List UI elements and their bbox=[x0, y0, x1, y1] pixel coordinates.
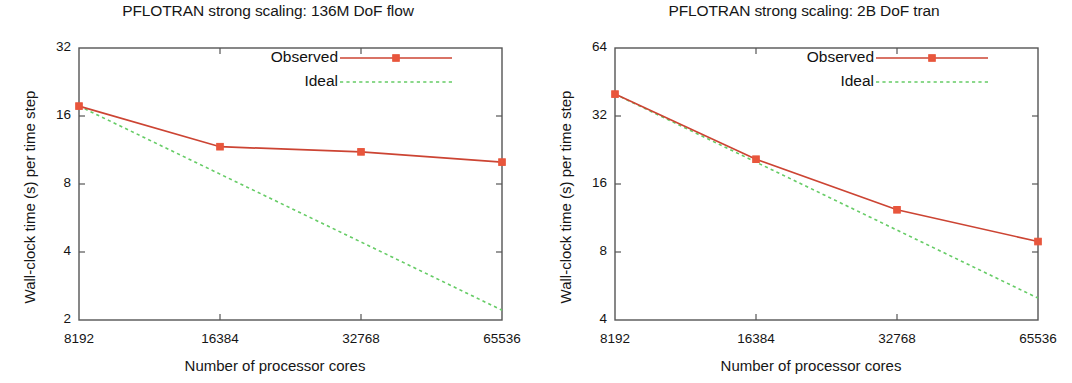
chart-panel-flow: PFLOTRAN strong scaling: 136M DoF flow W… bbox=[0, 0, 536, 383]
x-tick-label: 8192 bbox=[575, 331, 655, 346]
y-tick-label: 8 bbox=[567, 243, 607, 258]
x-axis-label-flow: Number of processor cores bbox=[40, 357, 510, 374]
x-tick-label: 16384 bbox=[716, 331, 796, 346]
y-tick-label: 2 bbox=[31, 311, 71, 326]
figure-two-panel-scaling-plots: PFLOTRAN strong scaling: 136M DoF flow W… bbox=[0, 0, 1072, 383]
y-tick-label: 32 bbox=[567, 107, 607, 122]
legend-label-ideal: Ideal bbox=[716, 72, 874, 90]
x-tick-label: 32768 bbox=[857, 331, 937, 346]
legend-label-observed: Observed bbox=[180, 48, 338, 66]
y-tick-label: 8 bbox=[31, 175, 71, 190]
y-tick-label: 32 bbox=[31, 39, 71, 54]
y-tick-label: 16 bbox=[31, 107, 71, 122]
x-tick-label: 65536 bbox=[462, 331, 542, 346]
y-tick-label: 4 bbox=[567, 311, 607, 326]
legend-label-observed: Observed bbox=[716, 48, 874, 66]
y-tick-label: 16 bbox=[567, 175, 607, 190]
legend-label-ideal: Ideal bbox=[180, 72, 338, 90]
y-tick-label: 4 bbox=[31, 243, 71, 258]
chart-panel-tran: PFLOTRAN strong scaling: 2B DoF tran Wal… bbox=[536, 0, 1072, 383]
x-tick-label: 8192 bbox=[39, 331, 119, 346]
x-tick-label: 32768 bbox=[321, 331, 401, 346]
x-tick-label: 65536 bbox=[998, 331, 1072, 346]
x-tick-label: 16384 bbox=[180, 331, 260, 346]
y-tick-label: 64 bbox=[567, 39, 607, 54]
x-axis-label-tran: Number of processor cores bbox=[576, 357, 1046, 374]
